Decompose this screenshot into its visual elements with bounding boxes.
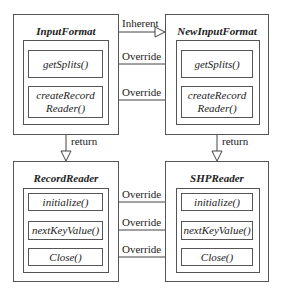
method-get-splits: getSplits() [181, 50, 253, 78]
class-title: SHPReader [166, 172, 268, 184]
override-label: Override [122, 50, 161, 62]
return-label: return [222, 135, 248, 147]
method-close: Close() [181, 248, 253, 266]
override-label: Override [122, 243, 161, 255]
method-initialize: initialize() [28, 193, 103, 211]
override-label: Override [122, 188, 161, 200]
method-next-key-value: nextKeyValue() [28, 221, 103, 240]
method-initialize: initialize() [181, 193, 253, 211]
override-label: Override [122, 216, 161, 228]
class-title: RecordReader [14, 172, 118, 184]
return-label: return [71, 135, 97, 147]
override-label: Override [122, 86, 161, 98]
class-title: InputFormat [14, 25, 118, 37]
method-next-key-value: nextKeyValue() [181, 221, 253, 240]
method-close: Close() [28, 248, 103, 266]
inherent-label: Inherent [122, 17, 159, 29]
method-get-splits: getSplits() [28, 50, 103, 78]
method-create-record-reader: createRecord Reader() [28, 86, 103, 118]
class-title: NewInputFormat [166, 25, 268, 37]
method-create-record-reader: createRecord Reader() [181, 86, 253, 118]
